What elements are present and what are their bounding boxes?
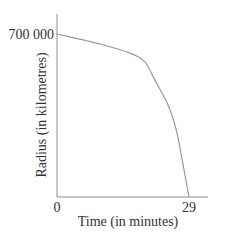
chart-area: 700 000 0 29 Time (in minutes) Radius (i… — [0, 0, 225, 234]
x-tick-29: 29 — [182, 200, 196, 215]
x-tick-0: 0 — [54, 200, 61, 215]
y-axis-label: Radius (in kilometres) — [34, 52, 50, 178]
radius-curve — [57, 34, 189, 197]
x-axis-label: Time (in minutes) — [78, 214, 179, 230]
y-tick-700000: 700 000 — [9, 27, 55, 42]
